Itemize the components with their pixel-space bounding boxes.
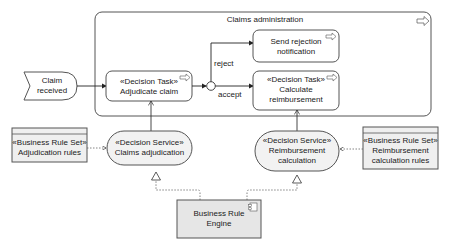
event-label: Claim received: [28, 76, 76, 96]
task-name-line2: notification: [253, 47, 339, 57]
adjudicate-task-label: «Decision Task» Adjudicate claim: [106, 77, 192, 97]
component-name-line2: Engine: [177, 219, 261, 229]
stereotype: «Business Rule Set»: [12, 138, 87, 148]
service-name-line2: calculation: [255, 156, 339, 166]
event-line1: Claim: [28, 76, 76, 86]
stereotype: «Decision Service»: [255, 136, 339, 146]
rule-set-name-line1: Reimbursement: [363, 146, 438, 156]
task-name-line1: Send rejection: [253, 37, 339, 47]
junction: [207, 82, 216, 91]
stereotype: «Decision Task»: [253, 75, 339, 85]
stereotype: «Decision Task»: [106, 77, 192, 87]
reimbursement-rules-label: «Business Rule Set» Reimbursement calcul…: [363, 136, 438, 166]
container-title: Claims administration: [180, 15, 350, 25]
task-name-line1: Calculate: [253, 85, 339, 95]
component-name-line1: Business Rule: [177, 209, 261, 219]
task-name-line2: reimbursement: [253, 95, 339, 105]
rule-set-name-line2: calculation rules: [363, 156, 438, 166]
service-name-line1: Reimbursement: [255, 146, 339, 156]
rule-set-name: Adjudication rules: [12, 148, 87, 158]
task-name: Adjudicate claim: [106, 87, 192, 97]
reject-label: reject: [214, 59, 244, 69]
calculate-task-label: «Decision Task» Calculate reimbursement: [253, 75, 339, 105]
stereotype: «Decision Service»: [107, 138, 192, 148]
service-name: Claims adjudication: [107, 148, 192, 158]
send-rejection-label: Send rejection notification: [253, 37, 339, 57]
stereotype: «Business Rule Set»: [363, 136, 438, 146]
accept-label: accept: [218, 90, 252, 100]
business-rule-engine-label: Business Rule Engine: [177, 209, 261, 229]
realization-arrowhead: [293, 175, 302, 183]
claims-adjudication-label: «Decision Service» Claims adjudication: [107, 138, 192, 158]
adjudication-rules-label: «Business Rule Set» Adjudication rules: [12, 138, 87, 158]
event-line2: received: [28, 86, 76, 96]
realization-arrowhead: [152, 172, 161, 180]
reimbursement-calc-label: «Decision Service» Reimbursement calcula…: [255, 136, 339, 166]
